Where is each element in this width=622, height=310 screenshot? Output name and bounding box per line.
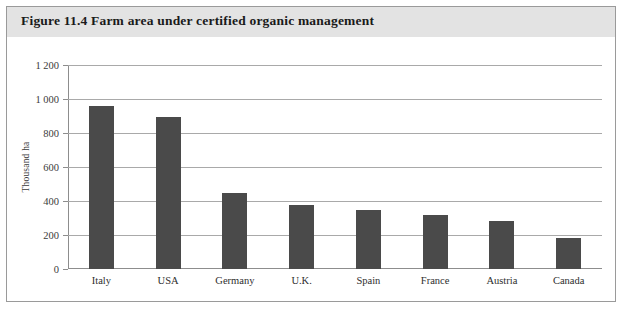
bar-canada: [556, 238, 581, 269]
x-axis-tick-label: U.K.: [291, 275, 311, 286]
y-axis-title: Thousand ha: [21, 141, 31, 192]
figure-title-band: Figure 11.4 Farm area under certified or…: [7, 7, 615, 37]
x-axis-tick-label: USA: [158, 275, 179, 286]
gridline: [68, 65, 602, 66]
chart-plot-area: 02004006008001 0001 200 Thousand ha Ital…: [7, 37, 615, 301]
gridline: [68, 133, 602, 134]
x-axis-tick-label: Italy: [92, 275, 111, 286]
y-axis-tick: [63, 65, 68, 66]
bar-france: [423, 215, 448, 269]
x-axis-tick-label: Spain: [356, 275, 380, 286]
y-axis-tick-label-wrap: 1 000: [7, 99, 59, 100]
bar-austria: [489, 221, 514, 269]
gridline: [68, 99, 602, 100]
y-axis-tick: [63, 269, 68, 270]
y-axis-tick: [63, 201, 68, 202]
bar-u-k: [289, 205, 314, 269]
y-axis-tick-label: 400: [43, 196, 59, 207]
y-axis-tick: [63, 99, 68, 100]
gridline: [68, 235, 602, 236]
bar-italy: [89, 106, 114, 269]
figure-container: Figure 11.4 Farm area under certified or…: [0, 0, 622, 310]
y-axis-tick-label-wrap: 800: [7, 133, 59, 134]
y-axis-tick-label-wrap: 600: [7, 167, 59, 168]
y-axis-tick: [63, 133, 68, 134]
figure-title: Figure 11.4 Farm area under certified or…: [21, 13, 374, 29]
y-axis-tick-label: 200: [43, 230, 59, 241]
y-axis-tick-label-wrap: 0: [7, 269, 59, 270]
bar-germany: [222, 193, 247, 269]
x-axis-tick-label: France: [421, 275, 450, 286]
y-axis-tick: [63, 167, 68, 168]
y-axis-tick-label-wrap: 200: [7, 235, 59, 236]
y-axis-tick-label: 1 200: [35, 60, 59, 71]
x-axis-tick-label: Austria: [486, 275, 517, 286]
y-axis-tick-label-wrap: 400: [7, 201, 59, 202]
y-axis-tick-label: 0: [54, 264, 59, 275]
x-axis-tick-label: Germany: [215, 275, 254, 286]
y-axis-tick: [63, 235, 68, 236]
bar-usa: [156, 117, 181, 269]
gridline: [68, 201, 602, 202]
figure-frame: Figure 11.4 Farm area under certified or…: [6, 6, 616, 302]
y-axis-tick-label: 600: [43, 162, 59, 173]
gridline: [68, 167, 602, 168]
x-axis-tick-label: Canada: [553, 275, 585, 286]
y-axis-tick-label-wrap: 1 200: [7, 65, 59, 66]
y-axis-tick-label: 800: [43, 128, 59, 139]
bar-spain: [356, 210, 381, 270]
y-axis-tick-label: 1 000: [35, 94, 59, 105]
